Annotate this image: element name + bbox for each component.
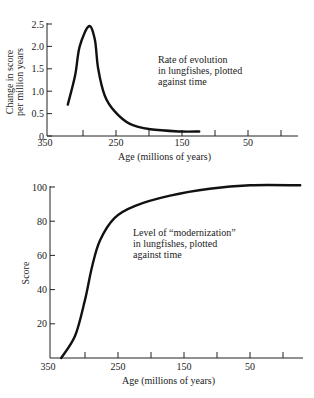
annotation-line: against time bbox=[158, 76, 207, 87]
bottom-y-axis-title: Score bbox=[20, 261, 31, 284]
bottom-y-axis: 20406080100 bbox=[32, 182, 55, 359]
modernization-level-chart: 20406080100 35025015050 Level of “modern… bbox=[20, 182, 303, 388]
annotation-line: against time bbox=[133, 249, 182, 260]
bottom-x-axis: 35025015050 bbox=[41, 352, 304, 372]
y-tick-label: 40 bbox=[37, 284, 47, 295]
y-axis-title-line: Score bbox=[20, 261, 31, 284]
top-y-axis: 00.51.01.52.02.5 bbox=[32, 19, 53, 142]
x-tick-label: 350 bbox=[38, 137, 53, 148]
y-tick-label: 2.5 bbox=[32, 19, 45, 30]
y-tick-label: 2.0 bbox=[32, 41, 45, 52]
top-x-axis: 35025015050 bbox=[38, 130, 299, 148]
x-tick-label: 50 bbox=[243, 137, 253, 148]
modernization-curve bbox=[61, 185, 300, 358]
y-tick-label: 1.5 bbox=[32, 63, 45, 74]
top-x-axis-title: Age (millions of years) bbox=[118, 151, 211, 163]
y-axis-title-line: per million years bbox=[14, 48, 25, 116]
x-tick-label: 350 bbox=[41, 361, 56, 372]
bottom-x-axis-title: Age (millions of years) bbox=[122, 375, 215, 387]
top-annotation: Rate of evolutionin lungfishes, plotteda… bbox=[158, 54, 242, 87]
chart-canvas: 00.51.01.52.02.5 35025015050 Rate of evo… bbox=[0, 0, 314, 398]
y-tick-label: 80 bbox=[37, 216, 47, 227]
rate-of-evolution-chart: 00.51.01.52.02.5 35025015050 Rate of evo… bbox=[4, 19, 298, 164]
x-tick-label: 150 bbox=[175, 137, 190, 148]
annotation-line: in lungfishes, plotted bbox=[158, 65, 242, 76]
x-tick-label: 250 bbox=[111, 361, 126, 372]
y-tick-label: 1.0 bbox=[32, 86, 45, 97]
y-tick-label: 100 bbox=[32, 182, 47, 193]
top-y-axis-title: Change in scoreper million years bbox=[4, 48, 25, 116]
annotation-line: in lungfishes, plotted bbox=[133, 238, 217, 249]
x-tick-label: 50 bbox=[245, 361, 255, 372]
x-tick-label: 250 bbox=[109, 137, 124, 148]
bottom-annotation: Level of “modernization”in lungfishes, p… bbox=[133, 227, 236, 260]
annotation-line: Rate of evolution bbox=[158, 54, 227, 65]
y-tick-label: 20 bbox=[37, 318, 47, 329]
y-tick-label: 0.5 bbox=[32, 108, 45, 119]
y-tick-label: 60 bbox=[37, 250, 47, 261]
annotation-line: Level of “modernization” bbox=[133, 227, 236, 238]
x-tick-label: 150 bbox=[177, 361, 192, 372]
